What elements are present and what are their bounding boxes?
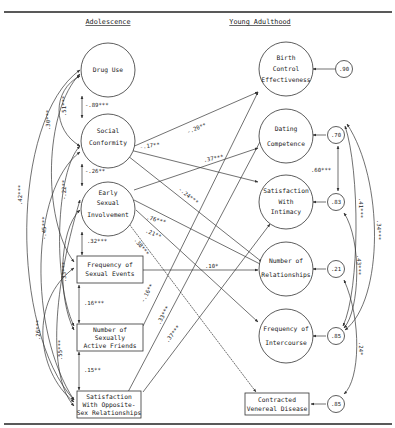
path-arrows bbox=[126, 92, 270, 392]
svg-text:.37***: .37*** bbox=[203, 154, 224, 163]
svg-text:Sex Relationships: Sex Relationships bbox=[77, 409, 142, 417]
svg-text:Number of: Number of bbox=[269, 257, 303, 264]
svg-text:Effectiveness: Effectiveness bbox=[261, 76, 310, 83]
svg-text:Social: Social bbox=[97, 127, 120, 134]
svg-text:Number of: Number of bbox=[93, 326, 127, 333]
svg-text:With Opposite-: With Opposite- bbox=[82, 401, 135, 409]
svg-text:Relationships: Relationships bbox=[261, 271, 310, 279]
svg-text:.10*: .10* bbox=[205, 263, 218, 269]
svg-text:.41***: .41*** bbox=[358, 198, 364, 218]
svg-text:.90: .90 bbox=[339, 66, 349, 72]
svg-text:.15**: .15** bbox=[84, 367, 101, 373]
svg-text:Early: Early bbox=[99, 189, 118, 197]
header-adolescence: Adolescence bbox=[85, 18, 130, 26]
node-frequency-sexual-events: Frequency of Sexual Events bbox=[77, 256, 143, 283]
svg-text:-.89***: -.89*** bbox=[85, 102, 109, 108]
svg-text:Involvement: Involvement bbox=[87, 211, 129, 218]
svg-text:Frequency of: Frequency of bbox=[263, 325, 309, 333]
node-venereal-disease: Contracted Venereal Disease bbox=[245, 393, 309, 415]
svg-text:Drug Use: Drug Use bbox=[93, 66, 124, 74]
svg-text:.76***: .76*** bbox=[146, 214, 167, 225]
svg-text:Contracted: Contracted bbox=[258, 396, 296, 403]
svg-text:-.26**: -.26** bbox=[85, 168, 105, 174]
svg-text:Competence: Competence bbox=[267, 140, 305, 148]
node-birth-control: Birth Control Effectiveness bbox=[259, 42, 313, 96]
svg-text:Sexual: Sexual bbox=[97, 199, 120, 206]
svg-text:.21**: .21** bbox=[145, 227, 163, 239]
svg-text:.33***: .33*** bbox=[61, 262, 67, 282]
svg-text:With: With bbox=[278, 198, 293, 205]
svg-text:.16***: .16*** bbox=[84, 300, 104, 306]
svg-text:.51***: .51*** bbox=[61, 96, 67, 116]
svg-text:Conformity: Conformity bbox=[89, 139, 127, 147]
svg-text:-.20**: -.20** bbox=[186, 121, 207, 134]
svg-text:.70: .70 bbox=[331, 132, 341, 138]
curved-correlation-arrows bbox=[27, 70, 80, 406]
path-diagram: Adolescence Young Adulthood bbox=[0, 0, 395, 428]
node-dating-competence: Dating Competence bbox=[259, 109, 313, 163]
svg-text:.55***: .55*** bbox=[57, 340, 63, 360]
node-social-conformity: Social Conformity bbox=[81, 114, 135, 168]
svg-text:.34***: .34*** bbox=[376, 220, 382, 240]
svg-text:.26***: .26*** bbox=[35, 320, 41, 340]
path-coefficient-labels: -.20** -.17** .37*** -.24*** .76*** .21*… bbox=[133, 121, 224, 343]
node-early-sexual-involvement: Early Sexual Involvement bbox=[81, 182, 135, 236]
svg-text:Birth: Birth bbox=[277, 54, 296, 61]
node-drug-use: Drug Use bbox=[81, 43, 135, 97]
svg-text:Dating: Dating bbox=[275, 125, 298, 133]
node-number-relationships: Number of Relationships bbox=[259, 242, 313, 296]
svg-text:Sexual Events: Sexual Events bbox=[85, 270, 134, 277]
svg-text:.38***: .38*** bbox=[133, 237, 150, 257]
svg-text:Sexually: Sexually bbox=[95, 334, 126, 342]
svg-text:.60***: .60*** bbox=[311, 167, 331, 173]
svg-text:-.16**: -.16** bbox=[140, 283, 155, 304]
svg-text:Intercourse: Intercourse bbox=[265, 339, 307, 346]
svg-text:-.22**: -.22** bbox=[61, 180, 67, 200]
svg-text:.85: .85 bbox=[331, 333, 341, 339]
svg-text:.43***: .43*** bbox=[356, 255, 362, 275]
header-young-adulthood: Young Adulthood bbox=[229, 18, 290, 26]
svg-text:.42***: .42*** bbox=[17, 185, 23, 205]
svg-text:Venereal Disease: Venereal Disease bbox=[247, 405, 308, 412]
node-satisfaction-intimacy: Satisfaction With Intimacy bbox=[259, 175, 313, 229]
residual-circles: .90 .70 .83 .21 .85 .85 bbox=[328, 61, 353, 413]
svg-text:Frequency of: Frequency of bbox=[87, 261, 133, 269]
svg-text:.30***: .30*** bbox=[45, 110, 51, 130]
svg-text:.24*: .24* bbox=[358, 342, 364, 355]
svg-text:.37***: .37*** bbox=[164, 324, 181, 344]
residual-arrows bbox=[311, 69, 335, 404]
svg-text:Satisfaction: Satisfaction bbox=[263, 187, 309, 194]
svg-text:Control: Control bbox=[273, 65, 300, 72]
svg-text:Satisfaction: Satisfaction bbox=[86, 393, 132, 400]
svg-text:Active Friends: Active Friends bbox=[83, 342, 136, 349]
node-satisfaction-opposite-sex: Satisfaction With Opposite- Sex Relation… bbox=[77, 391, 142, 418]
svg-text:.32***: .32*** bbox=[87, 238, 107, 244]
svg-text:.83: .83 bbox=[331, 199, 341, 205]
node-number-active-friends: Number of Sexually Active Friends bbox=[77, 324, 143, 351]
svg-text:Intimacy: Intimacy bbox=[271, 208, 302, 216]
node-frequency-intercourse: Frequency of Intercourse bbox=[259, 309, 313, 363]
svg-text:.21: .21 bbox=[331, 266, 341, 272]
svg-text:.85: .85 bbox=[331, 401, 341, 407]
svg-text:-.45***: -.45*** bbox=[41, 216, 47, 240]
svg-text:-.24***: -.24*** bbox=[177, 186, 199, 205]
